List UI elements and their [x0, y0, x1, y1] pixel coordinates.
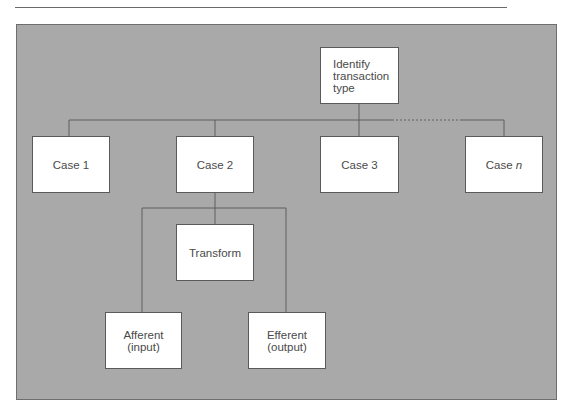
node-label: Efferent (output) [267, 329, 307, 353]
node-identify-transaction-type: Identify transaction type [320, 47, 399, 104]
node-case-1: Case 1 [32, 136, 110, 193]
label-line: transaction [333, 70, 389, 82]
label-italic-n: n [516, 159, 522, 171]
node-efferent: Efferent (output) [248, 312, 326, 369]
node-label: Afferent (input) [123, 329, 163, 353]
label-line: type [333, 82, 389, 94]
node-transform: Transform [176, 224, 254, 281]
label-prefix: Case [486, 159, 516, 171]
node-case-3: Case 3 [320, 136, 399, 193]
node-afferent: Afferent (input) [105, 312, 182, 369]
label-line: (input) [123, 341, 163, 353]
node-case-2: Case 2 [176, 136, 254, 193]
label-line: Afferent [123, 329, 163, 341]
node-label: Case 3 [341, 159, 377, 171]
node-label: Case 2 [197, 159, 233, 171]
node-label: Identify transaction type [333, 58, 389, 94]
label-line: (output) [267, 341, 307, 353]
node-label: Case 1 [53, 159, 89, 171]
label-line: Efferent [267, 329, 307, 341]
node-label: Transform [189, 247, 241, 259]
label-line: Identify [333, 58, 389, 70]
node-case-n: Case n [465, 136, 543, 193]
node-label: Case n [486, 159, 522, 171]
